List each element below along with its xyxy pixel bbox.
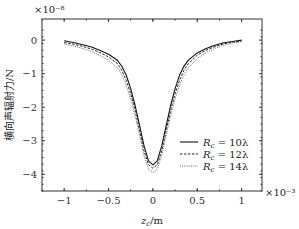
y-tick-label: 0 xyxy=(31,35,37,46)
y-tick-label: −3 xyxy=(22,135,37,146)
legend-label: Rc = 14λ xyxy=(202,161,249,174)
x-tick-label: 0 xyxy=(150,195,156,206)
line-chart: −1−0.500.51 0−1−2−3−4 ×10⁻⁸ ×10⁻³ zc/m 横… xyxy=(0,0,299,229)
x-axis-label: zc/m xyxy=(140,215,164,228)
x-tick-label: −1 xyxy=(57,195,72,206)
x-tick-label: 0.5 xyxy=(189,195,205,206)
x-tick-label: −0.5 xyxy=(96,195,120,206)
y-tick-label: −2 xyxy=(22,102,37,113)
y-axis-multiplier: ×10⁻⁸ xyxy=(34,4,64,15)
x-tick-label: 1 xyxy=(238,195,244,206)
y-tick-label: −4 xyxy=(22,169,37,180)
x-axis-multiplier: ×10⁻³ xyxy=(265,187,295,198)
y-axis-label: 横向声辐射力/N xyxy=(3,69,15,141)
legend: Rc = 10λRc = 12λRc = 14λ xyxy=(180,137,249,174)
y-tick-label: −1 xyxy=(22,68,37,79)
